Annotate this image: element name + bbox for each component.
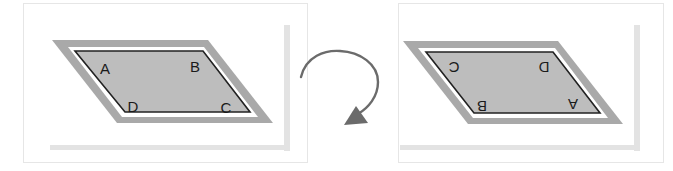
- rotated-parallelogram: [403, 41, 623, 124]
- original-vertex-label-top-right: B: [190, 59, 200, 74]
- rotated-vertex-label-bottom-right: A: [568, 97, 578, 112]
- rotated-vertex-label-top-right: D: [539, 60, 550, 75]
- rotate-arrow-icon: [301, 51, 378, 125]
- original-parallelogram: [52, 40, 273, 123]
- rotation-diagram: A B D C C D B A: [0, 0, 673, 171]
- original-vertex-label-bottom-right: C: [221, 100, 232, 115]
- original-vertex-label-bottom-left: D: [128, 99, 139, 114]
- original-vertex-label-top-left: A: [100, 61, 110, 76]
- rotated-vertex-label-bottom-left: B: [477, 99, 487, 114]
- diagram-graphics: [0, 0, 673, 171]
- rotated-vertex-label-top-left: C: [449, 60, 460, 75]
